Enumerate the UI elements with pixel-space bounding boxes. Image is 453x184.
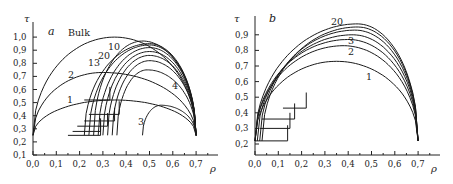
curve-6 xyxy=(108,55,197,135)
curve-label-1: 1 xyxy=(67,94,73,105)
curve-20 xyxy=(255,24,418,141)
y-tick-label: 0,4 xyxy=(235,108,249,118)
curve-label-b-20: 20 xyxy=(331,16,343,27)
x-tick-label: 0,2 xyxy=(295,159,309,169)
panel-a-letter: a xyxy=(48,25,55,38)
y-tick-label: 0,5 xyxy=(235,92,249,102)
x-tick-label: 0,4 xyxy=(341,159,355,169)
x-tick-label: 0,0 xyxy=(248,159,262,169)
curve-7 xyxy=(103,52,196,136)
y-tick-label: 0,8 xyxy=(13,58,27,68)
curve-10 xyxy=(262,27,418,141)
curve-label-3: 3 xyxy=(138,116,144,127)
y-tick-label: 0,3 xyxy=(235,123,249,133)
y-tick-label: 1,0 xyxy=(13,32,27,42)
y-tick-label: 0,7 xyxy=(13,71,27,81)
panel-a-x-label: ρ xyxy=(209,163,216,174)
y-tick-label: 0,2 xyxy=(235,139,249,149)
curve-label-b-3: 3 xyxy=(348,35,354,46)
panel-a-chart: 0,00,10,20,30,40,50,60,70,10,20,30,40,50… xyxy=(13,13,218,174)
x-tick-label: 0,7 xyxy=(411,159,425,169)
y-tick-label: 0,2 xyxy=(13,137,27,147)
x-tick-label: 0,5 xyxy=(143,159,157,169)
curve-3 xyxy=(255,40,418,141)
x-tick-label: 0,7 xyxy=(189,159,203,169)
x-tick-label: 0,2 xyxy=(73,159,87,169)
y-tick-label: 0,9 xyxy=(235,30,249,40)
x-tick-label: 0,3 xyxy=(318,159,332,169)
curve-label-b-2: 2 xyxy=(348,46,354,57)
curve-label-2: 2 xyxy=(68,69,74,80)
panel-b-x-label: ρ xyxy=(430,163,437,174)
curve-label-20: 20 xyxy=(98,50,110,61)
curve-label-bulk: Bulk xyxy=(68,27,90,38)
figure: 0,00,10,20,30,40,50,60,70,10,20,30,40,50… xyxy=(0,0,453,184)
y-tick-label: 0,6 xyxy=(13,85,27,95)
y-tick-label: 0,9 xyxy=(13,45,27,55)
y-tick-label: 0,5 xyxy=(13,98,27,108)
panel-b-y-label: τ xyxy=(234,13,240,24)
y-tick-label: 0,4 xyxy=(13,111,27,121)
y-tick-label: 0,7 xyxy=(235,61,249,71)
panel-b-letter: b xyxy=(269,12,276,25)
x-tick-label: 0,6 xyxy=(166,159,180,169)
x-tick-label: 0,4 xyxy=(119,159,133,169)
y-tick-label: 0,3 xyxy=(13,124,27,134)
x-tick-label: 0,1 xyxy=(49,159,63,169)
curve-label-b-1: 1 xyxy=(366,71,372,82)
panel-b-chart: 0,00,10,20,30,40,50,60,70,20,30,40,50,60… xyxy=(234,12,440,174)
y-tick-label: 0,1 xyxy=(13,150,27,160)
x-tick-label: 0,6 xyxy=(388,159,402,169)
curve-2 xyxy=(255,46,418,141)
y-tick-label: 0,8 xyxy=(235,45,249,55)
x-tick-label: 0,1 xyxy=(271,159,285,169)
x-tick-label: 0,5 xyxy=(365,159,379,169)
x-tick-label: 0,3 xyxy=(96,159,110,169)
panel-a-y-label: τ xyxy=(24,13,30,24)
curve-label-4: 4 xyxy=(172,80,178,91)
y-tick-label: 0,6 xyxy=(235,77,249,87)
x-tick-label: 0,0 xyxy=(26,159,40,169)
